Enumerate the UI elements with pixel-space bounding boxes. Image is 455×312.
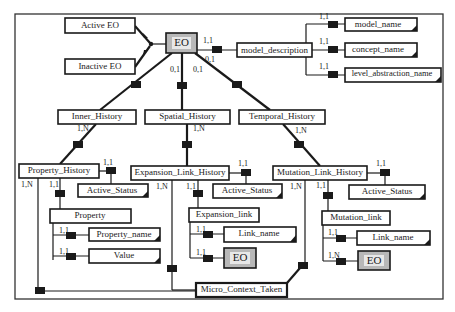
model-description-label: model_description [241,45,308,55]
cardinality: 1,N [77,124,89,133]
cardinality: 0,1 [193,65,203,74]
inner-history-label: Inner_History [72,111,123,121]
cardinality: 1,N [193,124,205,133]
active-status-label: Active_Status [87,185,138,195]
entity-model-description[interactable]: model_description [237,43,312,57]
cardinality: 1,N [328,251,340,260]
attribute-value[interactable]: Value [89,249,160,263]
cardinality: 1,1 [186,182,196,191]
attribute-link-name-mutation[interactable]: Link_name [357,231,430,245]
entity-spatial-history[interactable]: Spatial_History [145,110,230,124]
cardinality: 1,1 [103,158,113,167]
link-name-label: Link_name [373,232,414,242]
entity-eo-root[interactable]: EO [166,33,197,53]
attribute-concept-name[interactable]: concept_name [345,43,417,57]
mutation-link-label: Mutation_link [330,212,382,222]
cardinality: 1,1 [328,228,338,237]
concept-name-label: concept_name [352,44,404,54]
cardinality: 1,1 [49,180,59,189]
attribute-active-status-expansion[interactable]: Active_Status [213,184,282,198]
eo-mutation-label: EO [367,254,382,266]
entity-eo-expansion[interactable]: EO [224,248,256,268]
attribute-active-status-mutation[interactable]: Active_Status [349,185,425,199]
entity-inactive-eo[interactable]: Inactive EO [65,59,135,74]
attribute-property-name[interactable]: Property_name [89,228,160,241]
attribute-link-name-expansion[interactable]: Link_name [224,227,296,242]
cardinality: 1,N [295,126,307,135]
link-name-label: Link_name [239,228,280,238]
cardinality: 0,1 [205,55,215,64]
micro-context-taken-label: Micro_Context_Taken [201,284,283,294]
temporal-history-label: Temporal_History [249,111,315,121]
attribute-active-status-property[interactable]: Active_Status [78,184,148,197]
cardinality: 1,1 [196,248,206,257]
property-history-label: Property_History [28,165,91,175]
cardinality: 1,N [156,182,168,191]
attribute-level-abstraction-name[interactable]: level_abstraction_name [345,68,441,82]
entity-temporal-history[interactable]: Temporal_History [239,110,325,124]
spatial-history-label: Spatial_History [159,111,216,121]
cardinality: 1,1 [319,12,329,21]
attribute-model-name[interactable]: model_name [345,18,417,31]
entity-eo-mutation[interactable]: EO [358,251,390,270]
entity-property-history[interactable]: Property_History [19,164,99,178]
entity-relationship-diagram: Active EO Inactive EO EO model_descripti… [0,0,455,312]
cardinality: 1,N [21,180,33,189]
eo-expansion-label: EO [233,251,248,263]
cardinality: 1,1 [59,226,69,235]
active-eo-label: Active EO [81,20,120,30]
property-label: Property [75,210,106,220]
entity-active-eo[interactable]: Active EO [65,18,135,33]
entity-mutation-link[interactable]: Mutation_link [322,211,390,225]
cardinality: 1,1 [376,159,386,168]
entity-inner-history[interactable]: Inner_History [58,110,136,124]
cardinality: 0,1 [170,65,180,74]
inactive-eo-label: Inactive EO [78,61,122,71]
cardinality: 1,1 [238,159,248,168]
cardinality: 1,1 [203,36,213,45]
cardinality: 1,1 [319,37,329,46]
expansion-link-history-label: Expansion_Link_History [135,167,226,177]
mutation-link-history-label: Mutation_Link_History [277,167,363,177]
model-name-label: model_name [355,19,402,29]
entity-property[interactable]: Property [50,209,131,223]
entity-micro-context-taken[interactable]: Micro_Context_Taken [196,283,287,297]
history-sublines [60,124,320,166]
active-status-label: Active_Status [362,186,413,196]
cardinality: 1,1 [59,247,69,256]
eo-root-label: EO [174,36,189,48]
value-label: Value [114,250,135,260]
level-abstraction-name-label: level_abstraction_name [352,68,433,78]
cardinality: 1,1 [196,225,206,234]
cardinality: 1,1 [316,181,326,190]
active-status-label: Active_Status [222,185,273,195]
expansion-link-label: Expansion_link [196,209,253,219]
property-name-label: Property_name [97,229,152,239]
cardinality: 1,N [290,182,302,191]
entity-expansion-link-history[interactable]: Expansion_Link_History [131,166,229,180]
cardinality: 1,1 [319,62,329,71]
connector-square [212,46,222,53]
entity-expansion-link[interactable]: Expansion_link [189,208,259,222]
entity-mutation-link-history[interactable]: Mutation_Link_History [273,166,367,180]
